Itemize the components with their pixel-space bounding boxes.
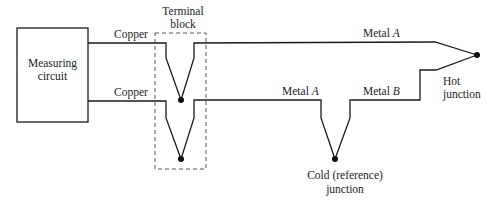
terminal-block-label-line1: Terminal xyxy=(162,5,203,17)
measuring-circuit-label-line2: circuit xyxy=(38,70,68,82)
copper-label-top: Copper xyxy=(114,28,148,41)
copper-wire-bottom xyxy=(88,101,181,159)
metal-b-wire xyxy=(335,55,477,159)
terminal-block-label-line2: block xyxy=(170,18,196,30)
metal-a-label-lower: Metal A xyxy=(282,85,320,97)
measuring-circuit: Measuring circuit xyxy=(17,28,88,122)
hot-junction-dot xyxy=(474,52,480,58)
metal-a-wire-top xyxy=(181,42,477,100)
metal-a-label-top: Metal A xyxy=(363,27,401,39)
metal-a-wire-lower xyxy=(181,100,335,159)
cold-junction-dot xyxy=(332,156,338,162)
metal-b-label: Metal B xyxy=(363,85,400,97)
terminal-junction-dot-top xyxy=(178,97,184,103)
measuring-circuit-label-line1: Measuring xyxy=(28,57,77,70)
terminal-block: Terminal block xyxy=(155,5,206,169)
copper-label-bottom: Copper xyxy=(114,86,148,99)
hot-junction-label-line1: Hot xyxy=(443,75,461,87)
thermocouple-diagram: Measuring circuit Terminal block Copper … xyxy=(0,0,488,204)
terminal-junction-dot-bottom xyxy=(178,156,184,162)
cold-junction-label-line2: junction xyxy=(325,183,364,196)
cold-junction-label-line1: Cold (reference) xyxy=(307,169,383,182)
hot-junction-label-line2: junction xyxy=(442,88,481,101)
